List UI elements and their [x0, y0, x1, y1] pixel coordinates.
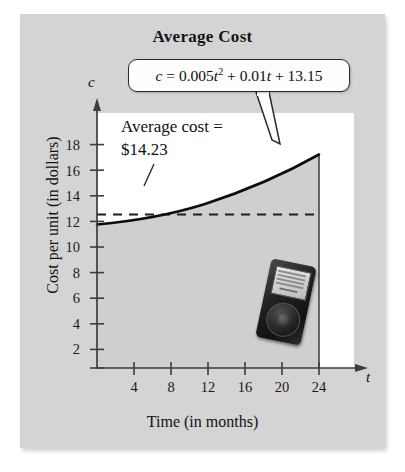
equation-callout: c = 0.005t2 + 0.01t + 13.15	[128, 59, 350, 92]
y-axis-variable-label: c	[88, 74, 95, 91]
y-axis-arrowhead	[93, 98, 101, 111]
screen-text-line	[280, 287, 298, 292]
x-axis-variable-label: t	[366, 369, 370, 386]
annotation-line-2: $14.23	[121, 140, 168, 159]
equation-plus-1: +	[227, 67, 236, 84]
callout-tail	[256, 92, 280, 144]
x-tick-label: 8	[158, 379, 184, 396]
x-axis-title: Time (in months)	[60, 413, 345, 431]
equation-lhs: c	[156, 67, 163, 84]
x-tick-label: 4	[121, 379, 147, 396]
figure-panel: Average Cost	[20, 14, 385, 448]
x-tick-label: 20	[269, 379, 295, 396]
equation-term1-exponent: 2	[218, 66, 223, 77]
x-tick-label: 12	[195, 379, 221, 396]
equation-term1-coef: 0.005	[179, 67, 214, 84]
annotation-line-1: Average cost =	[121, 117, 223, 136]
x-tick-label: 16	[232, 379, 258, 396]
equation-equals: =	[166, 67, 175, 84]
y-axis-title: Cost per unit (in dollars)	[44, 105, 62, 325]
equation-constant: 13.15	[288, 67, 323, 84]
average-cost-annotation: Average cost =$14.23	[121, 115, 223, 161]
mp3-player-center-button	[276, 313, 290, 327]
equation-term2-var: t	[267, 67, 271, 84]
equation-term2-coef: 0.01	[240, 67, 267, 84]
x-tick-label: 24	[306, 379, 332, 396]
equation-plus-2: +	[275, 67, 284, 84]
equation-text: c = 0.005t2 + 0.01t + 13.15	[156, 66, 323, 85]
y-tick-label: 2	[54, 341, 80, 358]
annotation-leader-line	[144, 164, 154, 186]
